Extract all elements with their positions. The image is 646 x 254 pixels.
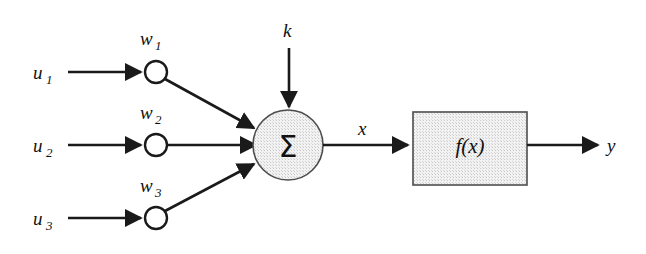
weight-label-1-subscript: 1 [155,38,162,53]
weight-label-2-subscript: 2 [155,112,162,127]
input-label-2: u [33,135,43,156]
weight-node-2 [145,134,167,156]
output-label: y [605,135,616,156]
net-input-label: x [357,118,367,139]
weighted-link-1 [165,79,254,128]
summation-symbol: Σ [279,129,298,164]
weight-node-3 [145,207,167,229]
weight-node-1 [145,61,167,83]
neuron-diagram-canvas: u 1 u 2 u 3 w 1 w 2 w 3 k Σ x f(x) y [0,0,646,254]
input-label-1: u [33,62,43,83]
input-label-3: u [33,208,43,229]
weight-label-2: w [140,102,153,123]
weight-label-3-subscript: 3 [154,185,162,200]
neuron-diagram-svg: u 1 u 2 u 3 w 1 w 2 w 3 k Σ x f(x) y [0,0,646,254]
input-label-1-subscript: 1 [46,72,53,87]
weighted-link-3 [165,164,254,211]
bias-label: k [283,20,292,41]
weight-label-3: w [140,175,153,196]
input-label-3-subscript: 3 [45,218,53,233]
weight-label-1: w [140,28,153,49]
activation-function-label: f(x) [455,134,484,158]
input-label-2-subscript: 2 [46,145,53,160]
